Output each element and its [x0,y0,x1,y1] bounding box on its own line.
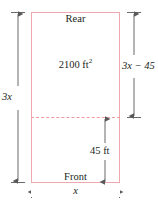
left-dimension-arrow [11,13,25,183]
label-inner-dimension: 45 ft [90,146,110,157]
label-rear: Rear [0,14,151,25]
lot-rectangle [31,12,120,183]
label-bottom-dimension: x [31,186,120,197]
label-area-exponent: 2 [89,57,93,65]
label-front: Front [0,172,151,183]
section-divider-dashed-line [31,117,120,118]
figure-canvas: Rear 2100 ft2 Front 3x 3x − 45 45 ft x [0,0,158,209]
label-right-dimension: 3x − 45 [122,61,155,72]
label-area-value: 2100 ft [59,59,89,70]
label-left-dimension: 3x [2,92,12,103]
